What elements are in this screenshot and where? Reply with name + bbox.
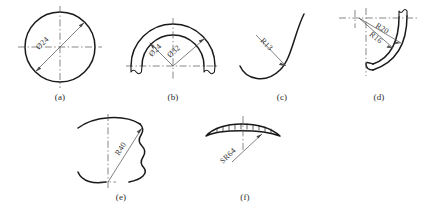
figure-b: Ø24 Ø32 (b) [118,4,228,104]
figure-b-caption: (b) [118,92,228,102]
figure-c-caption: (c) [232,92,332,102]
figure-d: R20 R16 (d) [335,4,423,104]
figure-a-drawing: Ø24 [8,4,112,90]
figure-b-label-0: Ø24 [147,42,163,59]
figure-d-caption: (d) [335,92,423,102]
figure-a: Ø24 (a) [8,4,112,104]
right-break-line [204,66,215,74]
figure-e-caption: (e) [62,192,180,202]
radius-dimension-line [108,128,142,182]
figure-a-caption: (a) [8,92,112,102]
figure-f-label-0: SR64 [218,146,238,165]
figure-c-drawing: R13 [232,4,332,90]
drawing-plate: Ø24 (a) Ø24 Ø32 (b) [0,0,427,213]
left-break-line [131,66,142,74]
figure-b-drawing: Ø24 Ø32 [118,4,228,90]
tip-cap [366,62,373,70]
figure-f: SR64 (f) [190,110,300,202]
figure-f-drawing: SR64 [190,110,300,190]
figure-c-label-0: R13 [259,36,275,52]
figure-a-label-0: Ø24 [34,35,51,52]
figure-e-label-0: R40 [113,140,128,157]
figure-d-drawing: R20 R16 [335,4,423,90]
spherical-radius-leader [232,134,262,162]
figure-c: R13 (c) [232,4,332,104]
right-break-outline [129,124,145,182]
top-break-line [399,10,407,18]
figure-b-label-1: Ø32 [165,43,182,59]
top-arc [78,118,140,128]
figure-e-drawing: R40 [62,110,180,190]
bottom-arc [78,172,106,183]
figure-f-caption: (f) [190,192,300,202]
figure-e: R40 (e) [62,110,180,202]
